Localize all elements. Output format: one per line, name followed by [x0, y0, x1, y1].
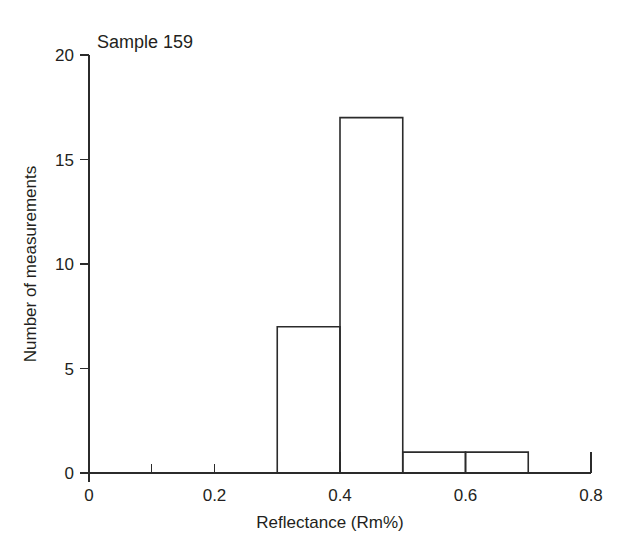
y-tick-label-20: 20	[55, 46, 74, 65]
x-tick-label-0-2: 0.2	[203, 486, 227, 505]
x-tick-label-0: 0	[84, 486, 93, 505]
x-tick-label-0-6: 0.6	[454, 486, 478, 505]
y-tick-label-0: 0	[65, 464, 74, 483]
y-tick-label-15: 15	[55, 151, 74, 170]
x-tick-label-0-8: 0.8	[579, 486, 603, 505]
histogram-figure: Sample 159 0 5 10 15 20 Number of measur…	[0, 0, 642, 543]
chart-background	[0, 0, 642, 543]
x-tick-label-0-4: 0.4	[328, 486, 352, 505]
chart-canvas: Sample 159 0 5 10 15 20 Number of measur…	[0, 0, 642, 543]
y-axis-title: Number of measurements	[21, 166, 40, 363]
chart-title: Sample 159	[97, 32, 193, 52]
y-tick-label-10: 10	[55, 255, 74, 274]
y-tick-label-5: 5	[65, 360, 74, 379]
x-axis-title: Reflectance (Rm%)	[256, 513, 403, 532]
